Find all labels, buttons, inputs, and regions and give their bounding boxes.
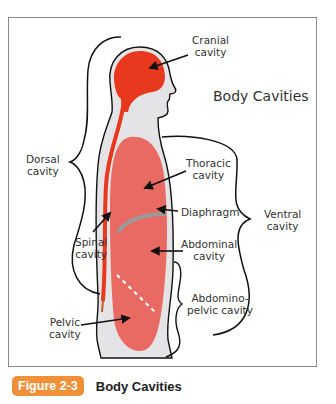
caption-title: Body Cavities	[96, 379, 182, 394]
label-pelvic-cavity: Pelvic cavity	[49, 316, 81, 340]
label-spinal-cavity: Spinal cavity	[75, 236, 107, 260]
label-diaphragm: Diaphragm	[181, 206, 239, 218]
label-line: Pelvic	[49, 316, 81, 328]
label-cranial-cavity: Cranial cavity	[192, 34, 229, 58]
label-thoracic-cavity: Thoracic cavity	[186, 157, 231, 181]
figure-caption: Figure 2-3 Body Cavities	[12, 376, 182, 396]
label-line: Abdominal	[181, 238, 237, 250]
label-line: cavity	[26, 165, 60, 177]
label-line: cavity	[49, 328, 81, 340]
label-line: Diaphragm	[181, 206, 239, 218]
figure-number-badge: Figure 2-3	[12, 376, 84, 396]
label-abdominopelvic-cavity: Abdomino- pelvic cavity	[187, 292, 253, 316]
label-line: cavity	[192, 46, 229, 58]
label-abdominal-cavity: Abdominal cavity	[181, 238, 237, 262]
label-line: Spinal	[75, 236, 107, 248]
label-line: cavity	[181, 250, 237, 262]
label-line: Ventral	[264, 208, 301, 220]
label-line: cavity	[186, 169, 231, 181]
label-line: Thoracic	[186, 157, 231, 169]
label-line: Abdomino-	[187, 292, 253, 304]
label-line: cavity	[75, 248, 107, 260]
diagram-title: Body Cavities	[213, 88, 309, 104]
label-line: Dorsal	[26, 153, 60, 165]
label-line: pelvic cavity	[187, 304, 253, 316]
label-dorsal-cavity: Dorsal cavity	[26, 153, 60, 177]
body-cavities-illustration	[0, 0, 336, 404]
label-line: Cranial	[192, 34, 229, 46]
label-ventral-cavity: Ventral cavity	[264, 208, 301, 232]
label-line: cavity	[264, 220, 301, 232]
